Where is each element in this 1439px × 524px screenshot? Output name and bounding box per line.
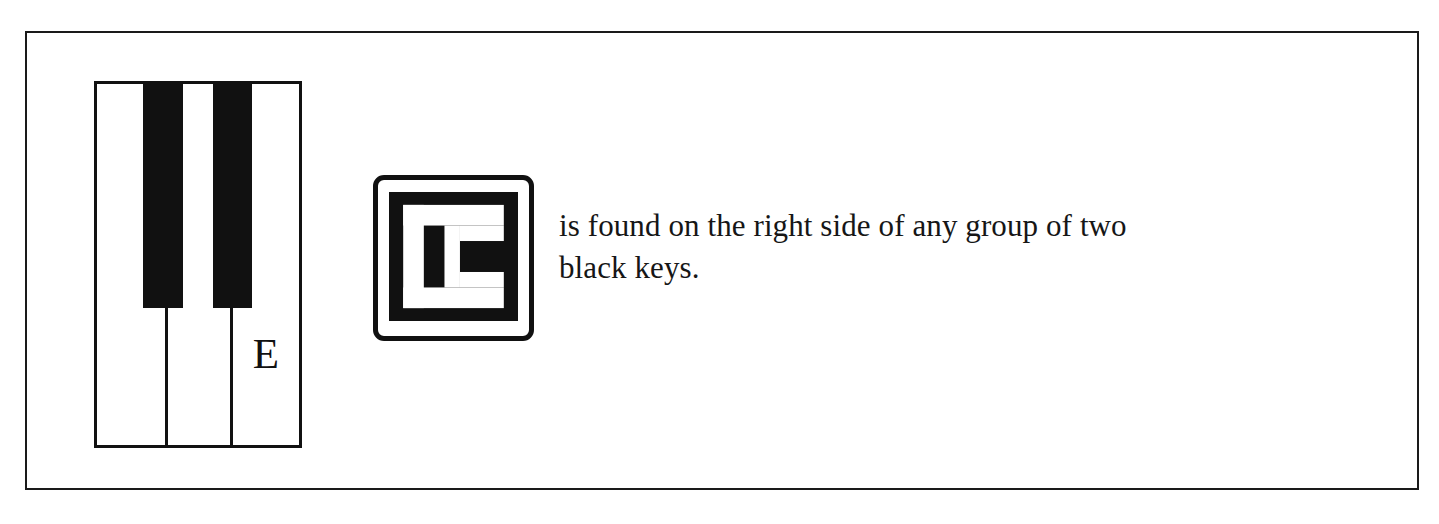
figure-frame: E is found on the right side: [25, 31, 1419, 490]
keyboard-note-label: E: [230, 332, 302, 375]
figure-caption: is found on the right side of any group …: [559, 205, 1179, 289]
letter-e-knockout-glyph: [389, 192, 518, 321]
white-key-divider: [230, 308, 233, 445]
white-key-divider: [165, 308, 168, 445]
black-piano-key-icon: [143, 81, 183, 308]
boxed-letter-e-icon: [373, 175, 534, 341]
black-piano-key-icon: [213, 81, 252, 308]
piano-keyboard-diagram: E: [94, 81, 302, 448]
